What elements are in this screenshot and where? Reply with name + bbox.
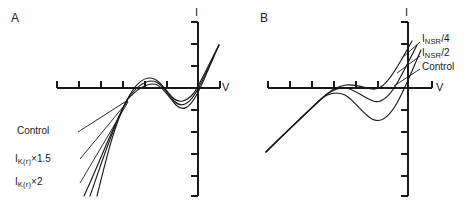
panel-b-y-ticks: [401, 22, 408, 196]
panel-a-curve-ikr2: [84, 45, 219, 196]
panel-a-x-axis-label: V: [222, 82, 229, 93]
panel-a-label-ikr15-sub: K(r): [18, 157, 31, 166]
panel-a-label-ikr15: IK(r)×1.5: [15, 153, 51, 165]
panel-a-label-control: Control: [17, 125, 49, 137]
panel-a-label-ikr2-suffix: ×2: [31, 176, 42, 187]
panel-a: A: [0, 0, 236, 209]
panel-b-plot: [236, 0, 472, 209]
panel-b-curve-insr2: [266, 45, 417, 152]
panel-b: B: [236, 0, 472, 209]
panel-a-label-ikr2-sub: K(r): [18, 180, 31, 189]
panel-a-curve-control: [97, 45, 219, 196]
panel-b-y-axis-label: I: [405, 7, 408, 18]
panel-b-label-insr2: INSR/2: [422, 47, 450, 59]
panel-a-curve-ikr15: [90, 45, 219, 196]
panel-a-y-axis-label: I: [195, 7, 198, 18]
panel-b-label-insr4-sub: NSR: [425, 37, 441, 46]
panel-b-label-insr2-sub: NSR: [425, 51, 441, 60]
panel-b-label-insr4-suffix: /4: [441, 33, 449, 44]
panel-b-label-insr2-suffix: /2: [441, 47, 449, 58]
panel-a-label-ikr2: IK(r)×2: [15, 176, 42, 188]
panel-b-curve-insr4: [266, 41, 412, 152]
figure-root: A: [0, 0, 472, 209]
panel-b-x-axis-label: V: [436, 82, 443, 93]
panel-b-label-insr4: INSR/4: [422, 33, 450, 45]
panel-a-y-ticks: [191, 22, 198, 196]
panel-a-label-ikr15-suffix: ×1.5: [31, 153, 51, 164]
panel-b-label-control: Control: [422, 61, 454, 73]
